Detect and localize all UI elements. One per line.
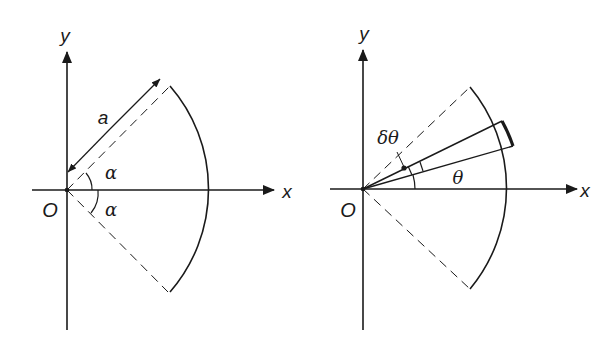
left-angle-lower-label: α [105,201,117,219]
left-angle-arc-lower [91,190,98,213]
right-theta-label: θ [453,169,464,187]
right-y-axis-label: y [359,24,369,43]
right-element-arc-highlight [502,121,513,146]
left-upper-radius-dashed [67,86,170,190]
right-origin-dot [361,187,366,192]
right-x-axis-label: x [580,181,590,200]
right-figure [330,50,577,330]
left-lower-radius-dashed [67,190,168,292]
left-angle-upper-label: α [105,164,117,182]
left-angle-arc-upper [86,173,92,190]
right-theta-arc [413,175,415,189]
right-sector-arc [470,87,506,289]
right-delta-theta-leader [397,152,404,167]
right-element-tick-2 [420,162,423,171]
left-figure [32,52,274,330]
left-origin-dot [65,188,70,193]
diagram-stage: y x O a α α y x O δθ θ [0,0,613,352]
left-sector-arc [170,86,209,292]
left-x-axis-label: x [282,182,292,201]
left-y-axis-label: y [60,26,70,45]
right-delta-theta-label: δθ [377,129,399,147]
left-radius-dimension-arrow-back [68,129,110,172]
left-radius-label: a [98,108,109,127]
right-lower-radius-dashed [363,189,470,289]
right-element-tick [408,166,412,175]
right-origin-label: O [340,200,356,220]
left-origin-label: O [42,200,58,220]
diagram-canvas [0,0,613,352]
right-element-point [401,165,406,170]
